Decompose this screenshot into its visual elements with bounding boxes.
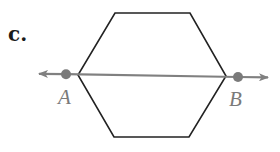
point-b-label: B (229, 87, 242, 111)
point-a (61, 69, 71, 79)
point-b (233, 72, 243, 82)
diagram-canvas: A B (0, 0, 280, 152)
line-ab (66, 74, 238, 77)
point-a-label: A (56, 85, 71, 109)
